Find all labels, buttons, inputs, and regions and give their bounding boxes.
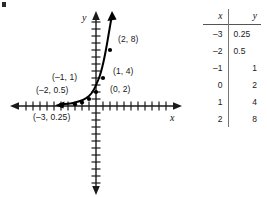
curve-top-arrow <box>107 11 116 21</box>
table-cell-x: 0 <box>203 76 228 93</box>
table-cell-y: 8 <box>228 110 261 127</box>
point-label-1-4: (1, 4) <box>113 66 133 76</box>
data-point <box>73 102 77 106</box>
table-row: –2 0.5 <box>203 42 261 59</box>
table-cell-x: –3 <box>203 25 228 43</box>
data-point <box>87 97 91 101</box>
table-cell-x: 2 <box>203 110 228 127</box>
table-row: 2 8 <box>203 110 261 127</box>
data-point <box>94 90 98 94</box>
table-header-x: x <box>203 9 228 25</box>
x-axis-left-arrow <box>10 102 19 110</box>
coordinate-graph: y x (2, 8) (1, 4) (0, 2) (–1, 1) (–2, 0.… <box>0 0 196 197</box>
table-cell-y: 0.5 <box>228 42 261 59</box>
graph-canvas <box>0 0 196 197</box>
point-label-0-2: (0, 2) <box>110 84 130 94</box>
y-axis-top-arrow <box>92 11 100 20</box>
table-cell-x: –1 <box>203 59 228 76</box>
table-cell-y: 4 <box>228 93 261 110</box>
data-point <box>101 76 105 80</box>
table-row: –3 0.25 <box>203 25 261 43</box>
point-label-neg3-025: (–3, 0.25) <box>33 112 70 122</box>
table-cell-y: 1 <box>228 59 261 76</box>
axes-group <box>10 11 182 195</box>
values-table: x y –3 0.25 –2 0.5 –1 1 0 <box>203 9 261 127</box>
table-header-y: y <box>228 9 261 25</box>
y-axis-label: y <box>82 12 86 23</box>
point-label-2-8: (2, 8) <box>118 34 138 44</box>
values-table-container: x y –3 0.25 –2 0.5 –1 1 0 <box>203 9 261 127</box>
curve-left-arrow <box>55 102 65 109</box>
point-label-neg2-05: (–2, 0.5) <box>36 85 69 95</box>
table-cell-x: 1 <box>203 93 228 110</box>
y-axis-bottom-arrow <box>92 186 100 195</box>
table-cell-y: 0.25 <box>228 25 261 43</box>
x-axis-label: x <box>170 112 174 123</box>
table-row: 1 4 <box>203 93 261 110</box>
table-header-row: x y <box>203 9 261 25</box>
table-header: x y <box>203 9 261 25</box>
exponential-function-figure: y x (2, 8) (1, 4) (0, 2) (–1, 1) (–2, 0.… <box>0 0 267 197</box>
data-point <box>80 100 84 104</box>
table-cell-y: 2 <box>228 76 261 93</box>
table-body: –3 0.25 –2 0.5 –1 1 0 2 1 4 <box>203 25 261 128</box>
table-row: 0 2 <box>203 76 261 93</box>
x-axis-right-arrow <box>173 102 182 110</box>
table-cell-x: –2 <box>203 42 228 59</box>
data-point <box>108 48 112 52</box>
point-label-neg1-1: (–1, 1) <box>52 72 77 82</box>
table-row: –1 1 <box>203 59 261 76</box>
